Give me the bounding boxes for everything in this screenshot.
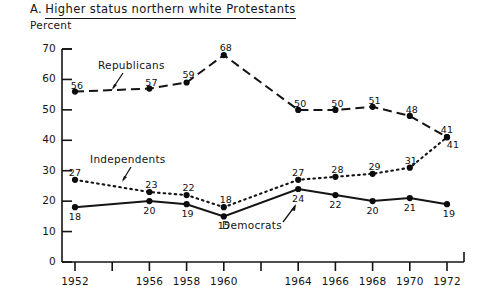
value-label-independents-1972: 41 bbox=[443, 139, 463, 150]
y-tick-label-50: 50 bbox=[24, 103, 56, 115]
marker-democrats-1956 bbox=[146, 198, 152, 204]
series-lines bbox=[75, 55, 447, 216]
y-tick-label-0: 0 bbox=[24, 255, 56, 267]
democrats-arrow-head bbox=[291, 204, 296, 211]
value-label-democrats-1972: 19 bbox=[439, 208, 459, 219]
value-label-democrats-1958: 19 bbox=[178, 208, 198, 219]
x-tick-marks bbox=[75, 262, 447, 271]
marker-democrats-1964 bbox=[295, 186, 301, 192]
marker-democrats-1966 bbox=[332, 192, 338, 198]
x-tick-label-1972: 1972 bbox=[423, 275, 471, 286]
value-label-independents-1958: 22 bbox=[179, 182, 199, 193]
series-line-independents bbox=[75, 137, 447, 207]
marker-democrats-1970 bbox=[407, 195, 413, 201]
value-label-democrats-1966: 22 bbox=[325, 199, 345, 210]
y-tick-label-70: 70 bbox=[24, 42, 56, 54]
value-label-independents-1952: 27 bbox=[65, 167, 85, 178]
marker-democrats-1972 bbox=[444, 201, 450, 207]
y-tick-label-60: 60 bbox=[24, 72, 56, 84]
x-tick-label-1952: 1952 bbox=[51, 275, 99, 286]
value-label-democrats-1952: 18 bbox=[65, 211, 85, 222]
value-label-republicans-1958: 59 bbox=[179, 69, 199, 80]
chart-figure: A.Higher status northern white Protestan… bbox=[0, 0, 480, 286]
value-label-republicans-1972: 41 bbox=[437, 124, 457, 135]
x-tick-label-1960: 1960 bbox=[200, 275, 248, 286]
value-label-democrats-1964: 24 bbox=[288, 193, 308, 204]
value-label-independents-1966: 28 bbox=[327, 164, 347, 175]
value-label-republicans-1970: 48 bbox=[402, 104, 422, 115]
value-label-independents-1960: 18 bbox=[216, 194, 236, 205]
value-label-democrats-1970: 21 bbox=[400, 202, 420, 213]
republicans-arrow-head bbox=[112, 84, 117, 90]
value-label-republicans-1966: 50 bbox=[327, 98, 347, 109]
value-label-republicans-1968: 51 bbox=[365, 95, 385, 106]
chart-canvas bbox=[0, 0, 480, 286]
value-label-republicans-1952: 56 bbox=[67, 80, 87, 91]
value-label-republicans-1956: 57 bbox=[141, 77, 161, 88]
value-label-independents-1968: 29 bbox=[365, 161, 385, 172]
marker-democrats-1958 bbox=[184, 201, 190, 207]
value-label-independents-1970: 31 bbox=[401, 155, 421, 166]
marker-democrats-1968 bbox=[370, 198, 376, 204]
y-tick-label-20: 20 bbox=[24, 194, 56, 206]
value-label-independents-1964: 27 bbox=[288, 167, 308, 178]
y-tick-label-40: 40 bbox=[24, 133, 56, 145]
value-label-republicans-1960: 68 bbox=[216, 42, 236, 53]
value-label-democrats-1956: 20 bbox=[139, 205, 159, 216]
value-label-republicans-1964: 50 bbox=[290, 98, 310, 109]
series-label-democrats: Democrats bbox=[222, 219, 282, 231]
value-label-independents-1956: 23 bbox=[141, 179, 161, 190]
value-label-democrats-1968: 20 bbox=[363, 205, 383, 216]
y-tick-label-10: 10 bbox=[24, 225, 56, 237]
y-tick-label-30: 30 bbox=[24, 164, 56, 176]
series-label-republicans: Republicans bbox=[98, 59, 165, 71]
independents-arrow-head bbox=[122, 176, 127, 182]
marker-democrats-1952 bbox=[72, 204, 78, 210]
series-label-independents: Independents bbox=[90, 153, 166, 165]
